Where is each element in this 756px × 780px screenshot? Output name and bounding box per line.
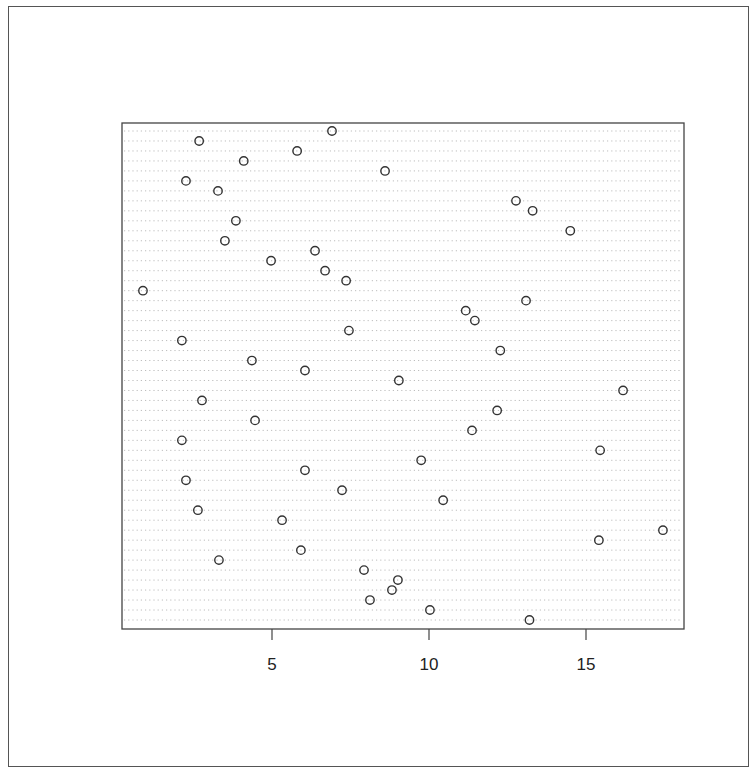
plot-area-border: [122, 123, 684, 629]
data-point: [528, 207, 536, 215]
data-point: [278, 516, 286, 524]
data-point: [215, 556, 223, 564]
data-point: [496, 346, 504, 354]
x-tick-label: 15: [577, 655, 596, 674]
x-tick-label: 10: [420, 655, 439, 674]
dot-chart: 51015: [0, 0, 756, 780]
x-axis: 51015: [267, 629, 595, 674]
data-point: [232, 217, 240, 225]
data-point: [194, 506, 202, 514]
x-tick-label: 5: [267, 655, 276, 674]
grid-lines: [124, 131, 682, 620]
data-points: [139, 127, 667, 624]
